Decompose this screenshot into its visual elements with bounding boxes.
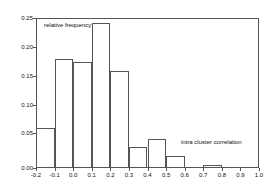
x-tick-mark-2 [73, 168, 74, 171]
y-tick-label-2: 0.15 [21, 73, 33, 79]
y-tick-mark-2 [33, 76, 36, 77]
x-tick-label-2: 0.0 [69, 172, 77, 178]
histogram-chart: 0.25 0.20 0.15 0.10 0.05 0.00 [0, 0, 276, 194]
x-tick-mark-4 [110, 168, 111, 171]
x-tick-label-11: 0.9 [236, 172, 244, 178]
y-tick-label-5: 0.00 [21, 165, 33, 171]
y-tick-label-0: 0.25 [21, 15, 33, 21]
x-tick-label-8: 0.6 [180, 172, 188, 178]
y-axis-label: relative frequency [44, 22, 91, 29]
x-tick-label-7: 0.5 [162, 172, 170, 178]
x-tick-label-0: -0.2 [31, 172, 41, 178]
y-tick-label-4: 0.05 [21, 130, 33, 136]
x-tick-mark-3 [92, 168, 93, 171]
x-tick-mark-9 [203, 168, 204, 171]
x-tick-label-5: 0.3 [125, 172, 133, 178]
x-axis-label: intra cluster correlation [181, 139, 242, 146]
x-tick-mark-11 [240, 168, 241, 171]
y-tick-label-3: 0.10 [21, 102, 33, 108]
x-tick-label-4: 0.2 [106, 172, 114, 178]
y-tick-mark-0 [33, 18, 36, 19]
x-tick-label-12: 1.0 [255, 172, 263, 178]
y-tick-label-1: 0.20 [21, 44, 33, 50]
y-tick-mark-4 [33, 133, 36, 134]
y-axis: 0.25 0.20 0.15 0.10 0.05 0.00 [0, 0, 33, 194]
x-tick-mark-1 [55, 168, 56, 171]
x-tick-mark-7 [166, 168, 167, 171]
y-tick-mark-1 [33, 47, 36, 48]
x-tick-mark-6 [148, 168, 149, 171]
x-tick-label-9: 0.7 [199, 172, 207, 178]
x-tick-mark-8 [185, 168, 186, 171]
x-tick-label-6: 0.4 [143, 172, 151, 178]
x-tick-label-1: -0.1 [49, 172, 59, 178]
y-tick-mark-3 [33, 105, 36, 106]
x-tick-mark-12 [259, 168, 260, 171]
x-tick-mark-0 [36, 168, 37, 171]
x-tick-mark-5 [129, 168, 130, 171]
x-tick-label-3: 0.1 [88, 172, 96, 178]
x-tick-mark-10 [222, 168, 223, 171]
x-tick-label-10: 0.8 [218, 172, 226, 178]
